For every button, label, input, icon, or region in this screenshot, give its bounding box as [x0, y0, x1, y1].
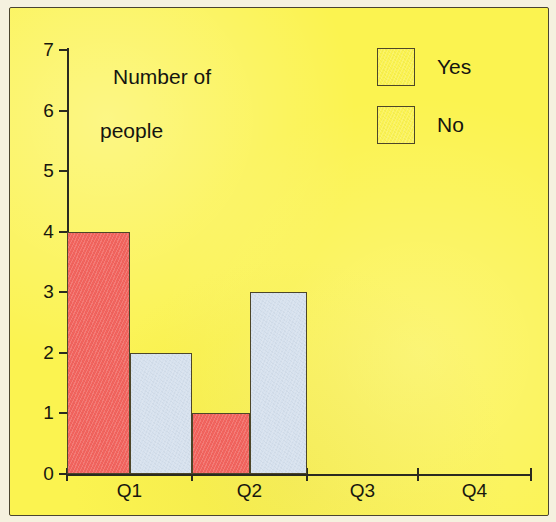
y-axis-tick-label: 7 — [43, 39, 54, 61]
legend-label-no: No — [437, 113, 464, 137]
bar-q2-yes — [250, 292, 308, 474]
legend-label-yes: Yes — [437, 55, 471, 79]
y-axis-tick: 5 — [59, 170, 68, 172]
legend-swatch-no — [377, 106, 415, 144]
x-axis-line — [67, 474, 531, 476]
y-axis-tick-label: 6 — [43, 100, 54, 122]
y-axis-tick: 7 — [59, 49, 68, 51]
y-axis-title-line1: Number of — [113, 65, 211, 88]
bar-q2-no — [192, 413, 250, 474]
y-axis-title: Number of people — [78, 36, 211, 198]
x-axis-category-label: Q4 — [418, 480, 531, 502]
x-axis-category-label: Q3 — [307, 480, 418, 502]
legend-swatch-yes — [377, 48, 415, 86]
bar-q1-no — [67, 232, 130, 474]
y-axis-tick-label: 3 — [43, 281, 54, 303]
bar-chart-figure: Number of people Yes No 01234567Q1Q2Q3Q4 — [0, 0, 556, 522]
y-axis-tick-label: 5 — [43, 160, 54, 182]
y-axis-tick-label: 4 — [43, 221, 54, 243]
chart-plate: Number of people Yes No 01234567Q1Q2Q3Q4 — [9, 7, 549, 516]
y-axis-tick-label: 2 — [43, 342, 54, 364]
legend-item-no: No — [377, 106, 464, 144]
y-axis-tick: 6 — [59, 110, 68, 112]
y-axis-tick-label: 1 — [43, 402, 54, 424]
y-axis-title-line2: people — [78, 117, 211, 144]
legend-item-yes: Yes — [377, 48, 471, 86]
y-axis-tick-label: 0 — [43, 463, 54, 485]
bar-q1-yes — [130, 353, 193, 474]
x-axis-category-label: Q2 — [192, 480, 307, 502]
x-axis-category-label: Q1 — [67, 480, 192, 502]
